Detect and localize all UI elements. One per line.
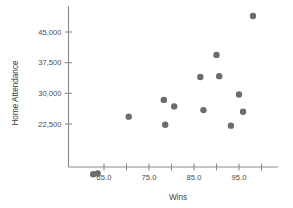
data-point: [236, 91, 242, 97]
y-axis: 22,50030,00037,50045,000: [38, 6, 72, 167]
x-tick-label: 75.0: [142, 173, 157, 182]
y-tick-label: 45,000: [38, 28, 61, 37]
data-point: [161, 97, 167, 103]
data-points-layer: [90, 13, 256, 178]
data-point: [95, 170, 101, 176]
data-point: [197, 74, 203, 80]
y-tick-label: 22,500: [38, 120, 61, 129]
y-tick-label: 37,500: [38, 58, 61, 67]
data-point: [228, 122, 234, 128]
y-tick-group: 22,50030,00037,50045,000: [38, 28, 72, 129]
x-axis-title: Wins: [169, 193, 187, 202]
data-point: [216, 73, 222, 79]
data-point: [126, 113, 132, 119]
plot-canvas: 22,50030,00037,50045,000 65.075.085.095.…: [0, 0, 293, 208]
data-point: [162, 122, 168, 128]
x-tick-label: 95.0: [232, 173, 247, 182]
data-point: [213, 52, 219, 58]
data-point: [240, 109, 246, 115]
y-tick-label: 30,000: [38, 89, 61, 98]
x-tick-group: 65.075.085.095.0: [97, 164, 262, 182]
scatter-plot-figure: 22,50030,00037,50045,000 65.075.085.095.…: [0, 0, 293, 208]
y-axis-title: Home Attendance: [11, 60, 20, 126]
data-point: [200, 107, 206, 113]
data-point: [250, 13, 256, 19]
data-point: [171, 103, 177, 109]
x-tick-label: 85.0: [187, 173, 202, 182]
